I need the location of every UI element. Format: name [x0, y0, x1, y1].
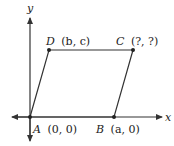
point-d-name: D — [45, 35, 55, 48]
point-d-dot — [47, 48, 51, 52]
point-a-coords: (0, 0) — [47, 123, 77, 136]
point-c-label: C (?, ?) — [116, 35, 158, 48]
point-b-dot — [112, 115, 116, 119]
point-c-name: C — [116, 35, 125, 48]
point-c-dot — [131, 48, 135, 52]
point-a-name: A — [32, 123, 41, 136]
point-b-label: B (a, 0) — [95, 123, 140, 136]
diagram-canvas: y x D (b, c) C (?, ?) A (0, 0) B (a, 0) — [0, 0, 174, 146]
parallelogram-abcd — [30, 50, 133, 117]
point-b-coords: (a, 0) — [111, 123, 140, 136]
point-a-dot — [28, 115, 32, 119]
y-axis-label: y — [26, 2, 34, 15]
point-d-label: D (b, c) — [45, 35, 90, 48]
x-axis-label: x — [165, 111, 172, 124]
coordinate-diagram: y x D (b, c) C (?, ?) A (0, 0) B (a, 0) — [0, 0, 174, 146]
point-a-label: A (0, 0) — [32, 123, 77, 136]
point-b-name: B — [95, 123, 104, 136]
point-c-coords: (?, ?) — [131, 35, 158, 48]
point-d-coords: (b, c) — [61, 35, 90, 48]
